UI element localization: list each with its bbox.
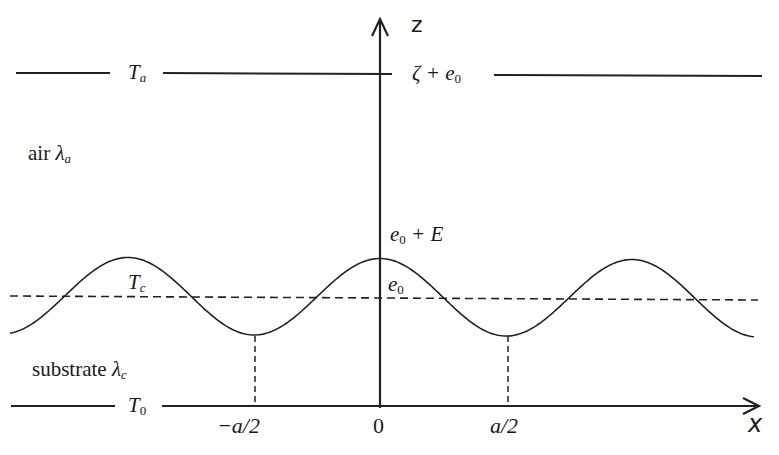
z-level-top-label: ζ + e0: [412, 63, 461, 85]
x-tick-pos-a-half: a/2: [490, 415, 518, 437]
x-axis: [11, 398, 759, 414]
temperature-top-label: Ta: [128, 62, 146, 84]
substrate-region-label: substrate λc: [32, 359, 127, 381]
temperature-interface-label: Tc: [128, 272, 145, 294]
z-level-peak-label: e0 + E: [390, 224, 443, 246]
air-region-label: air λa: [28, 143, 71, 165]
temperature-bottom-label: T0: [128, 395, 146, 417]
z-axis-label: z: [411, 14, 423, 36]
x-tick-neg-a-half: −a/2: [217, 415, 260, 437]
mean-level-dashed-line: [10, 296, 758, 300]
x-axis-label: x: [748, 412, 762, 436]
z-level-mean-label: e0: [388, 274, 404, 296]
x-tick-zero: 0: [373, 415, 384, 437]
z-axis: [372, 19, 388, 408]
